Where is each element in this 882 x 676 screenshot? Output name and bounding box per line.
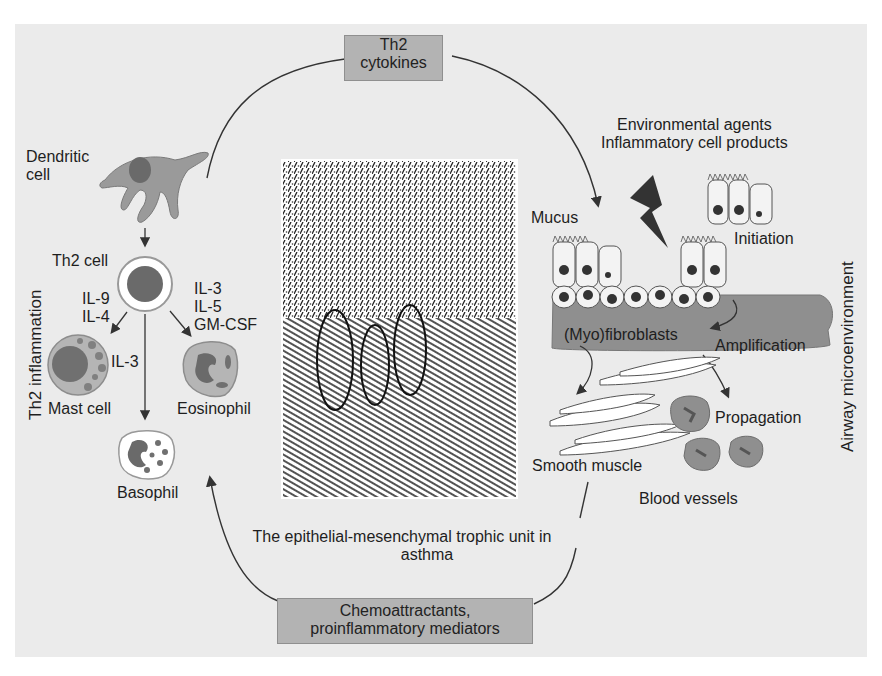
label-line: cell (26, 166, 89, 184)
propagation-label: Propagation (715, 409, 801, 427)
label-line: IL-9 (72, 290, 110, 308)
eosinophil-label: Eosinophil (177, 400, 251, 418)
airway-microenvironment-label: Airway microenvironment (838, 261, 858, 452)
trophic-unit-caption: The epithelial-mesenchymal trophic unit … (222, 528, 582, 564)
initiation-label: Initiation (734, 230, 794, 248)
mucus-label: Mucus (531, 209, 578, 227)
box-line: cytokines (345, 54, 442, 72)
label-line: GM-CSF (194, 316, 257, 334)
caption-line: asthma (222, 546, 582, 564)
eosinophil-shape (183, 342, 237, 397)
box-line: Chemoattractants, (278, 599, 532, 620)
mast-cell-shape (48, 335, 108, 395)
box-line: Th2 (345, 36, 442, 54)
caption-line: The epithelial-mesenchymal trophic unit … (222, 528, 582, 546)
initiation-epithelium (708, 174, 772, 224)
dendritic-cell-shape (100, 152, 208, 222)
myofibroblasts-label: (Myo)fibroblasts (564, 326, 678, 344)
histology-micrograph (282, 160, 517, 498)
smooth-muscle-label: Smooth muscle (532, 457, 642, 475)
label-line: Dendritic (26, 148, 89, 166)
label-line: IL-5 (194, 298, 257, 316)
label-line: IL-4 (82, 308, 110, 326)
th2-inflammation-label: Th2 inflammation (26, 290, 46, 420)
basophil-shape (119, 431, 175, 479)
lightning-bolt-icon (630, 175, 668, 248)
chemoattractants-box: Chemoattractants, proinflammatory mediat… (277, 598, 533, 644)
environmental-agents-label: Environmental agents Inflammatory cell p… (601, 116, 788, 152)
dendritic-cell-label: Dendritic cell (26, 148, 89, 184)
il-right-label: IL-3 IL-5 GM-CSF (194, 280, 257, 334)
label-line: Inflammatory cell products (601, 134, 788, 152)
blood-vessels-label: Blood vessels (639, 490, 738, 508)
basophil-label: Basophil (117, 484, 178, 502)
mast-cell-label: Mast cell (48, 400, 111, 418)
th2-cytokines-box: Th2 cytokines (344, 35, 443, 81)
th2-cell-label: Th2 cell (52, 252, 108, 270)
amplification-label: Amplification (715, 337, 806, 355)
label-line: Environmental agents (601, 116, 788, 134)
il-left-label: IL-9 IL-4 (72, 290, 110, 326)
box-line: proinflammatory mediators (278, 620, 532, 638)
label-line: IL-3 (194, 280, 257, 298)
il3-mast-label: IL-3 (111, 353, 139, 371)
